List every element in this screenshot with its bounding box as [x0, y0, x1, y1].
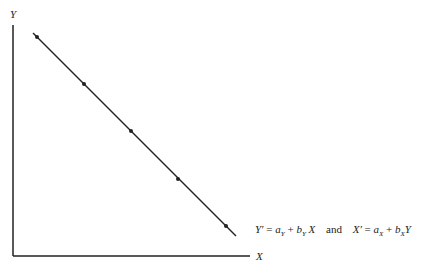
eq-left-a-sub: Y — [281, 230, 285, 238]
eq-connector: and — [326, 223, 342, 235]
regression-equations: Y′ = aY + bY X and X′ = aX + bXY — [255, 224, 411, 238]
data-point — [129, 129, 133, 133]
eq-left-lhs: Y′ — [255, 223, 264, 235]
eq-right-lhs: X′ — [353, 223, 362, 235]
y-axis-label: Y — [10, 9, 16, 20]
x-axis-label: X — [256, 251, 263, 262]
eq-right-a-sub: X — [379, 230, 383, 238]
regression-line — [33, 33, 236, 236]
data-point — [82, 82, 86, 86]
data-point — [224, 224, 228, 228]
eq-left-var: X — [309, 223, 316, 235]
data-point — [176, 177, 180, 181]
eq-right-var: Y — [405, 223, 411, 235]
eq-left-b-sub: Y — [302, 230, 306, 238]
data-point — [35, 35, 39, 39]
